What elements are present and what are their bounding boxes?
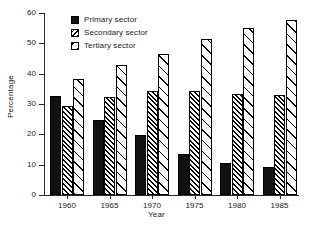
bar-1965-tertiary bbox=[116, 65, 127, 195]
bar-1965-secondary bbox=[104, 97, 115, 195]
y-tick-mark bbox=[39, 13, 44, 14]
y-tick-mark bbox=[39, 74, 44, 75]
x-tick-mark bbox=[237, 195, 238, 199]
y-tick: 50 bbox=[39, 43, 44, 44]
x-tick-mark bbox=[67, 195, 68, 199]
chart-legend: Primary sector Secondary sector Tertiary… bbox=[71, 13, 148, 52]
y-tick: 40 bbox=[39, 74, 44, 75]
y-axis-line bbox=[44, 13, 45, 195]
x-axis-label: Year bbox=[0, 210, 313, 219]
y-tick: 0 bbox=[39, 195, 44, 196]
y-tick-mark bbox=[39, 165, 44, 166]
y-axis-label: Percentage bbox=[6, 67, 15, 127]
x-tick-label: 1985 bbox=[271, 201, 289, 210]
bar-1975-primary bbox=[178, 154, 189, 195]
y-tick-label: 50 bbox=[27, 38, 36, 47]
bar-1970-primary bbox=[135, 135, 146, 195]
x-tick-label: 1965 bbox=[101, 201, 119, 210]
bar-1960-secondary bbox=[62, 106, 73, 195]
y-tick-label: 10 bbox=[27, 160, 36, 169]
bar-1980-secondary bbox=[232, 94, 243, 195]
bar-1960-primary bbox=[50, 96, 61, 195]
legend-label-secondary: Secondary sector bbox=[84, 28, 148, 37]
y-tick-mark bbox=[39, 195, 44, 196]
legend-swatch-tertiary-icon bbox=[71, 42, 79, 50]
bar-1985-primary bbox=[263, 167, 274, 195]
x-axis-line bbox=[44, 195, 299, 196]
bar-1985-secondary bbox=[274, 95, 285, 195]
legend-item-secondary: Secondary sector bbox=[71, 26, 148, 39]
legend-swatch-secondary-icon bbox=[71, 29, 79, 37]
y-tick-mark bbox=[39, 104, 44, 105]
y-tick: 20 bbox=[39, 134, 44, 135]
legend-label-primary: Primary sector bbox=[84, 15, 137, 24]
x-tick-mark bbox=[110, 195, 111, 199]
bar-1980-primary bbox=[220, 163, 231, 195]
y-tick-mark bbox=[39, 43, 44, 44]
bar-1965-primary bbox=[93, 120, 104, 195]
y-tick-label: 40 bbox=[27, 69, 36, 78]
bar-chart: Percentage Year 0102030405060 1960196519… bbox=[0, 0, 313, 234]
legend-swatch-primary-icon bbox=[71, 16, 79, 24]
y-tick: 10 bbox=[39, 165, 44, 166]
x-tick-mark bbox=[152, 195, 153, 199]
x-tick-mark bbox=[195, 195, 196, 199]
x-tick-mark bbox=[280, 195, 281, 199]
y-tick: 60 bbox=[39, 13, 44, 14]
y-tick: 30 bbox=[39, 104, 44, 105]
bar-1970-secondary bbox=[147, 91, 158, 195]
bar-1985-tertiary bbox=[286, 20, 297, 195]
legend-item-primary: Primary sector bbox=[71, 13, 148, 26]
bar-1960-tertiary bbox=[73, 79, 84, 195]
x-tick-label: 1970 bbox=[143, 201, 161, 210]
x-tick-label: 1960 bbox=[58, 201, 76, 210]
bar-1975-tertiary bbox=[201, 39, 212, 195]
bar-1975-secondary bbox=[189, 91, 200, 195]
x-tick-label: 1975 bbox=[186, 201, 204, 210]
y-tick-mark bbox=[39, 134, 44, 135]
y-tick-label: 0 bbox=[32, 190, 36, 199]
y-tick-label: 60 bbox=[27, 8, 36, 17]
legend-label-tertiary: Tertiary sector bbox=[84, 41, 136, 50]
y-tick-label: 30 bbox=[27, 99, 36, 108]
y-tick-label: 20 bbox=[27, 129, 36, 138]
x-tick-label: 1980 bbox=[228, 201, 246, 210]
bar-1970-tertiary bbox=[158, 54, 169, 195]
legend-item-tertiary: Tertiary sector bbox=[71, 39, 148, 52]
bar-1980-tertiary bbox=[243, 28, 254, 195]
